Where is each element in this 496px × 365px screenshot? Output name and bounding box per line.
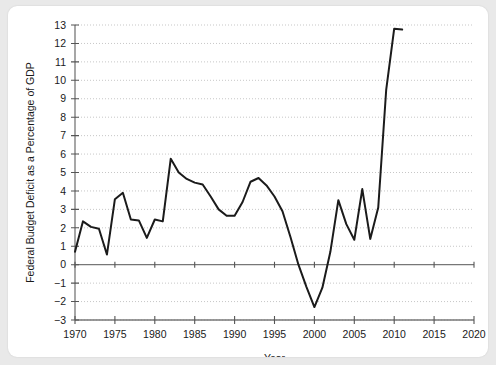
chart-svg: −3−2−1012345678910111213 197019751980198… — [8, 6, 488, 357]
y-tick-label: 4 — [60, 185, 66, 197]
x-tick-label: 1995 — [263, 328, 287, 340]
budget-deficit-line-chart: −3−2−1012345678910111213 197019751980198… — [8, 6, 488, 357]
x-tick-label: 1990 — [223, 328, 247, 340]
x-tick-label: 2015 — [422, 328, 446, 340]
y-tick-label: 11 — [55, 56, 66, 68]
y-axis-title: Federal Budget Deficit as a Percentage o… — [24, 62, 36, 283]
y-tick-label: 0 — [60, 258, 66, 270]
y-tick-label: 1 — [60, 240, 66, 252]
x-tick-label: 2000 — [303, 328, 327, 340]
y-tick-label: 10 — [54, 74, 66, 86]
y-tick-label: 12 — [54, 37, 66, 49]
x-tick-label: 1985 — [183, 328, 207, 340]
y-tick-label: 7 — [60, 129, 66, 141]
x-tick-labels-group: 1970197519801985199019952000200520102015… — [63, 328, 486, 340]
x-tick-label: 1975 — [103, 328, 127, 340]
x-tick-label: 2010 — [383, 328, 407, 340]
y-tick-label: 6 — [60, 148, 66, 160]
gridlines-group — [75, 25, 474, 320]
y-tick-label: −2 — [54, 295, 66, 307]
tick-marks-group — [71, 25, 474, 324]
y-tick-label: −3 — [54, 314, 66, 326]
x-tick-label: 2005 — [343, 328, 367, 340]
y-tick-label: 5 — [60, 166, 66, 178]
x-tick-label: 1970 — [63, 328, 87, 340]
y-tick-label: −1 — [54, 277, 66, 289]
x-axis-title: Year — [264, 352, 286, 357]
y-tick-label: 3 — [60, 203, 66, 215]
y-tick-label: 9 — [60, 92, 66, 104]
x-tick-label: 1980 — [143, 328, 167, 340]
y-tick-label: 8 — [60, 111, 66, 123]
y-tick-label: 2 — [60, 222, 66, 234]
x-tick-label: 2020 — [462, 328, 486, 340]
y-tick-label: 13 — [54, 19, 66, 31]
figure-card: −3−2−1012345678910111213 197019751980198… — [8, 6, 488, 357]
y-tick-labels-group: −3−2−1012345678910111213 — [54, 19, 66, 326]
